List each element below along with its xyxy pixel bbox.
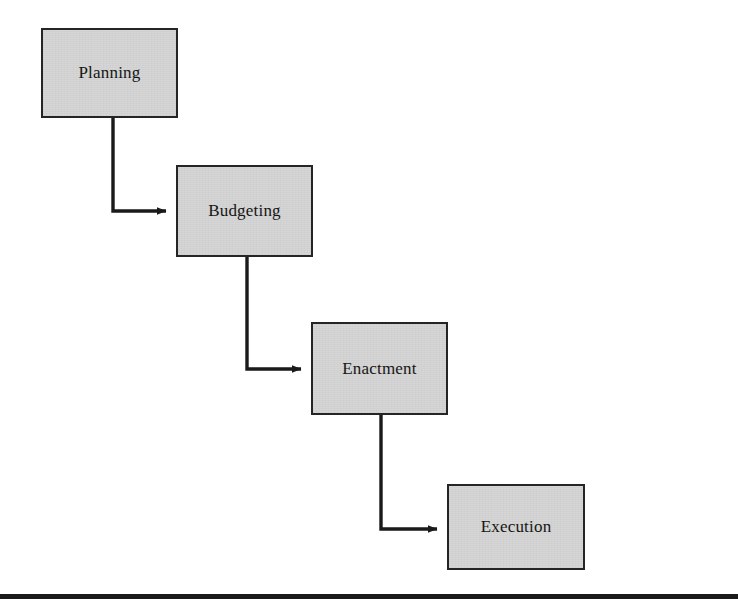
flow-node-execution[interactable]: Execution (447, 484, 585, 570)
flow-node-planning[interactable]: Planning (41, 28, 178, 118)
flow-node-budgeting-label: Budgeting (208, 201, 281, 221)
flow-node-enactment[interactable]: Enactment (311, 322, 448, 415)
edge-enactment-to-execution (381, 415, 437, 529)
flow-node-enactment-label: Enactment (342, 359, 417, 379)
diagram-canvas: Planning Budgeting Enactment Execution (0, 0, 738, 615)
flow-node-execution-label: Execution (481, 517, 552, 537)
flow-node-budgeting[interactable]: Budgeting (176, 165, 313, 257)
footer-divider-rule (0, 594, 738, 599)
flow-node-planning-label: Planning (78, 63, 140, 83)
edge-budgeting-to-enactment (247, 257, 301, 369)
edge-planning-to-budgeting (113, 118, 166, 211)
